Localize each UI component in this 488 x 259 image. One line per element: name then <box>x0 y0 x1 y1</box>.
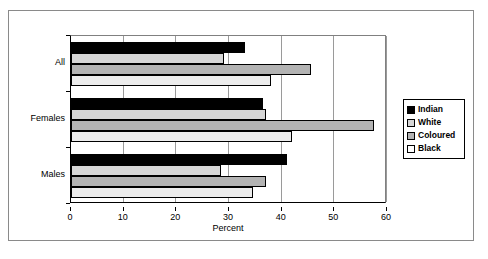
bar-row <box>71 154 387 165</box>
bar-males-indian[interactable] <box>71 154 287 165</box>
bar-row <box>71 64 387 75</box>
bar-row <box>71 176 387 187</box>
x-tick-0 <box>70 207 71 211</box>
y-label-males: Males <box>41 169 65 179</box>
bar-females-white[interactable] <box>71 109 266 120</box>
bar-all-black[interactable] <box>71 75 271 86</box>
chart-legend: IndianWhiteColouredBlack <box>403 99 465 159</box>
legend-item-coloured[interactable]: Coloured <box>407 129 460 142</box>
legend-swatch-icon <box>407 106 415 114</box>
chart-frame: AllFemalesMales 0102030405060 Percent In… <box>8 10 474 241</box>
y-tick <box>66 91 70 92</box>
bar-row <box>71 109 387 120</box>
bar-males-white[interactable] <box>71 165 221 176</box>
x-tick-30 <box>228 207 229 211</box>
x-tick-60 <box>386 207 387 211</box>
y-axis-labels: AllFemalesMales <box>9 35 65 203</box>
y-tick <box>66 147 70 148</box>
legend-label: Black <box>418 144 441 153</box>
bar-females-coloured[interactable] <box>71 120 374 131</box>
bar-all-indian[interactable] <box>71 42 245 53</box>
bar-group-males <box>71 148 385 204</box>
plot-area <box>70 35 386 203</box>
legend-item-black[interactable]: Black <box>407 142 460 155</box>
x-axis-title: Percent <box>70 223 386 233</box>
y-label-all: All <box>55 57 65 67</box>
bar-row <box>71 165 387 176</box>
legend-label: Coloured <box>418 131 455 140</box>
x-tick-50 <box>333 207 334 211</box>
bar-row <box>71 187 387 198</box>
y-label-females: Females <box>30 113 65 123</box>
legend-swatch-icon <box>407 132 415 140</box>
bar-group-all <box>71 36 385 92</box>
bar-row <box>71 98 387 109</box>
bar-row <box>71 53 387 64</box>
x-ticklabel-30: 30 <box>223 212 233 222</box>
bar-row <box>71 75 387 86</box>
bar-row <box>71 120 387 131</box>
bar-males-coloured[interactable] <box>71 176 266 187</box>
legend-item-white[interactable]: White <box>407 116 460 129</box>
x-ticklabel-0: 0 <box>67 212 72 222</box>
y-tick <box>66 35 70 36</box>
bar-all-white[interactable] <box>71 53 224 64</box>
bar-all-coloured[interactable] <box>71 64 311 75</box>
x-tick-10 <box>123 207 124 211</box>
bar-row <box>71 42 387 53</box>
bar-row <box>71 131 387 142</box>
x-tick-20 <box>175 207 176 211</box>
legend-swatch-icon <box>407 119 415 127</box>
y-tick <box>66 203 70 204</box>
x-ticklabel-10: 10 <box>118 212 128 222</box>
bar-group-females <box>71 92 385 148</box>
legend-item-indian[interactable]: Indian <box>407 103 460 116</box>
bar-males-black[interactable] <box>71 187 253 198</box>
x-axis-ticks: 0102030405060 <box>70 207 386 221</box>
legend-swatch-icon <box>407 145 415 153</box>
x-ticklabel-50: 50 <box>328 212 338 222</box>
bar-females-black[interactable] <box>71 131 292 142</box>
x-ticklabel-60: 60 <box>381 212 391 222</box>
x-tick-40 <box>281 207 282 211</box>
x-ticklabel-40: 40 <box>276 212 286 222</box>
legend-label: White <box>418 118 441 127</box>
legend-label: Indian <box>418 105 443 114</box>
bar-females-indian[interactable] <box>71 98 263 109</box>
x-ticklabel-20: 20 <box>170 212 180 222</box>
